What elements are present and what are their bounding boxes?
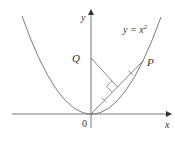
diagram-canvas: y x 0 Q P y = x2 bbox=[0, 0, 175, 142]
right-angle-marker bbox=[107, 81, 113, 93]
y-axis-label: y bbox=[80, 12, 86, 23]
parabola-diagram: y x 0 Q P y = x2 bbox=[0, 0, 175, 142]
point-q-label: Q bbox=[72, 52, 80, 64]
point-p-label: P bbox=[146, 56, 154, 68]
segment-q-perpendicular bbox=[91, 58, 118, 87]
x-axis-label: x bbox=[164, 119, 170, 130]
origin-label: 0 bbox=[82, 118, 87, 129]
curve-equation-label: y = x2 bbox=[122, 23, 148, 35]
